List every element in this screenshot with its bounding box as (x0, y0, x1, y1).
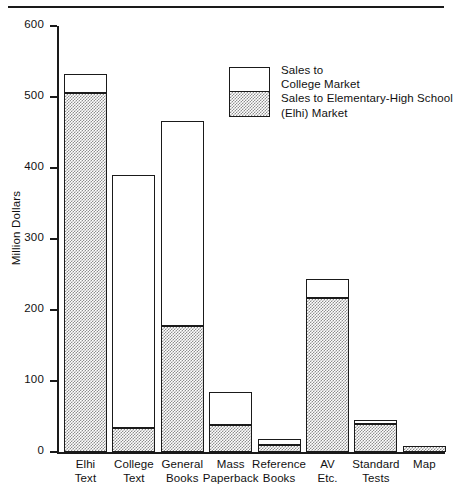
y-axis-line (57, 26, 59, 453)
bar-segment-college (64, 74, 107, 94)
y-tick-label: 500 (6, 90, 44, 102)
bar-segment-elhi (209, 425, 252, 452)
bar-segment-elhi (354, 424, 397, 452)
x-axis-label-line: Tests (345, 472, 406, 486)
bar-map (403, 446, 446, 452)
bar-segment-elhi (306, 298, 349, 452)
y-tick-mark (50, 167, 57, 169)
y-tick-label: 100 (6, 374, 44, 386)
bar-segment-college (306, 279, 349, 297)
bar-segment-elhi (161, 326, 204, 452)
y-tick-label: 0 (6, 445, 44, 457)
y-tick-label: 200 (6, 303, 44, 315)
legend-swatch-college (230, 68, 269, 92)
bar-standard-tests (354, 420, 397, 452)
y-axis-title: Million Dollars (10, 163, 22, 293)
bar-av-etc (306, 279, 349, 452)
bar-reference-books (258, 439, 301, 452)
bar-college-text (112, 175, 155, 452)
legend-swatch-elhi (230, 92, 269, 116)
bar-segment-elhi (403, 446, 446, 452)
x-axis-label-line: Map (394, 458, 455, 472)
legend-line-3: Sales to Elementary-High School (281, 91, 457, 105)
bar-segment-elhi (112, 428, 155, 452)
bar-segment-elhi (64, 93, 107, 452)
y-tick-mark (50, 96, 57, 98)
y-tick-label: 600 (6, 19, 44, 31)
legend-line-4: (Elhi) Market (281, 106, 457, 120)
y-tick-mark (50, 451, 57, 453)
legend-text: Sales to College Market Sales to Element… (281, 63, 457, 120)
bar-elhi-text (64, 74, 107, 452)
bar-segment-college (112, 175, 155, 428)
bar-segment-college (161, 121, 204, 326)
y-tick-mark (50, 238, 57, 240)
x-axis-line (57, 452, 445, 454)
bar-general-books (161, 121, 204, 452)
y-tick-mark (50, 380, 57, 382)
y-tick-label: 400 (6, 161, 44, 173)
y-tick-mark (50, 309, 57, 311)
legend-line-2: College Market (281, 77, 457, 91)
bar-mass-paperback (209, 392, 252, 452)
legend-swatch (229, 67, 270, 117)
legend-line-1: Sales to (281, 63, 457, 77)
x-axis-label: Map (394, 458, 455, 472)
y-tick-mark (50, 25, 57, 27)
bar-segment-elhi (258, 445, 301, 452)
top-rule-divider (8, 6, 444, 8)
y-tick-label: 300 (6, 232, 44, 244)
bar-segment-college (209, 392, 252, 425)
